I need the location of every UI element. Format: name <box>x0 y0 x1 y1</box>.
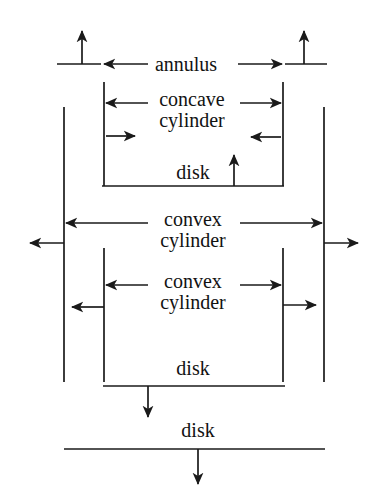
label-convex-cylinder-outer-line-1: convex <box>160 209 226 230</box>
label-disk-bottom-line-1: disk <box>181 420 214 441</box>
label-convex-cylinder-inner: convexcylinder <box>160 271 226 313</box>
label-disk-lower-line-1: disk <box>176 358 209 379</box>
label-convex-cylinder-inner-line-1: convex <box>160 271 226 292</box>
label-concave-cylinder-line-1: concave <box>159 89 225 110</box>
label-disk-lower: disk <box>176 358 209 379</box>
label-annulus-line-1: annulus <box>155 54 217 75</box>
label-concave-cylinder-line-2: cylinder <box>159 110 225 131</box>
diagram-canvas: annulusconcavecylinderdiskconvexcylinder… <box>0 0 368 497</box>
label-concave-cylinder: concavecylinder <box>159 89 225 131</box>
label-annulus: annulus <box>155 54 217 75</box>
label-disk-upper-line-1: disk <box>176 162 209 183</box>
label-convex-cylinder-outer: convexcylinder <box>160 209 226 251</box>
label-disk-bottom: disk <box>181 420 214 441</box>
label-convex-cylinder-inner-line-2: cylinder <box>160 292 226 313</box>
label-disk-upper: disk <box>176 162 209 183</box>
label-convex-cylinder-outer-line-2: cylinder <box>160 230 226 251</box>
